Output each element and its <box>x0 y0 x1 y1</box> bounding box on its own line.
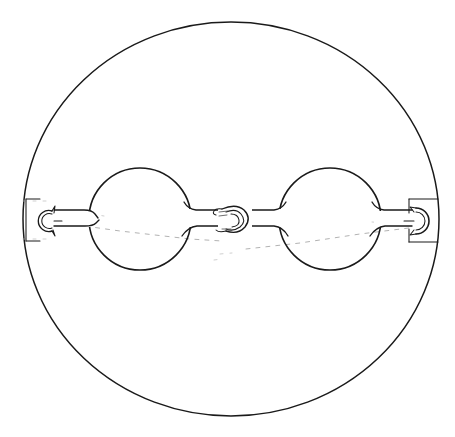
left-c-hook-inner <box>42 214 52 229</box>
right-inner-arm-group <box>246 202 288 236</box>
right-end-hook-group <box>404 199 438 242</box>
left-c-hook-upper-tip <box>52 206 55 213</box>
hidden-sight-line-right <box>246 228 409 249</box>
spectacles-line-drawing: Folding spectacles shown within circular… <box>0 0 455 437</box>
right-c-hook-inner <box>416 212 425 230</box>
right-c-hook-lower-tip <box>410 230 416 235</box>
left-lens-rim <box>89 168 191 270</box>
hidden-tick-center-lower <box>214 259 222 260</box>
right-lens-rim <box>279 168 381 270</box>
right-outer-arm-bottom-edge <box>370 226 412 236</box>
left-outer-arm-fill <box>55 211 98 227</box>
left-outer-arm-group <box>54 210 99 227</box>
right-lens-group <box>279 168 381 270</box>
left-c-hook-lower-tip <box>52 230 55 236</box>
figure-root: Folding spectacles shown within circular… <box>0 0 455 437</box>
right-outer-arm-fill <box>374 211 412 227</box>
hidden-tick-center <box>220 253 232 254</box>
center-bridge-group <box>213 200 252 240</box>
right-outer-arm-group <box>370 202 412 236</box>
left-lens-group <box>89 168 191 270</box>
